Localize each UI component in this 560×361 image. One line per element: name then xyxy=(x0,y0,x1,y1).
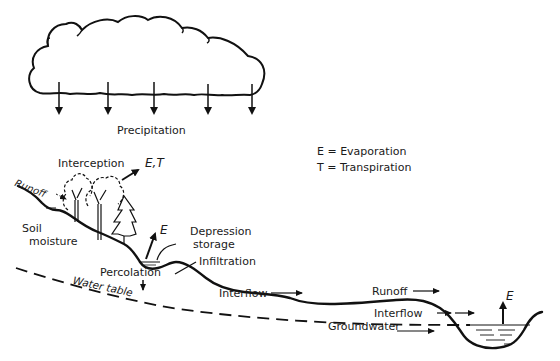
label-percolation: Percolation xyxy=(100,267,161,278)
label-groundwater: Groundwater xyxy=(328,321,400,332)
label-storage: storage xyxy=(193,239,235,250)
diagram-drawing xyxy=(0,0,560,361)
label-soil: Soil xyxy=(22,223,42,234)
precipitation-arrows xyxy=(59,82,252,113)
label-interflow-right: Interflow xyxy=(374,308,422,319)
legend-evaporation: E = Evaporation xyxy=(317,146,406,157)
label-et: E,T xyxy=(145,157,164,169)
label-infiltration: Infiltration xyxy=(199,256,256,267)
legend-transpiration: T = Transpiration xyxy=(317,162,411,173)
hydrologic-cycle-diagram: Precipitation Interception E,T Runoff So… xyxy=(0,0,560,361)
label-runoff-right: Runoff xyxy=(372,286,407,297)
label-depression: Depression xyxy=(190,226,252,237)
label-moisture: moisture xyxy=(29,236,78,247)
label-e-stream: E xyxy=(506,290,514,302)
label-precipitation: Precipitation xyxy=(117,125,186,136)
label-interception: Interception xyxy=(58,158,124,169)
label-interflow-mid: Interflow xyxy=(219,288,267,299)
label-e-depression: E xyxy=(160,224,168,236)
cloud-icon xyxy=(29,16,264,95)
ground-surface xyxy=(18,186,542,348)
